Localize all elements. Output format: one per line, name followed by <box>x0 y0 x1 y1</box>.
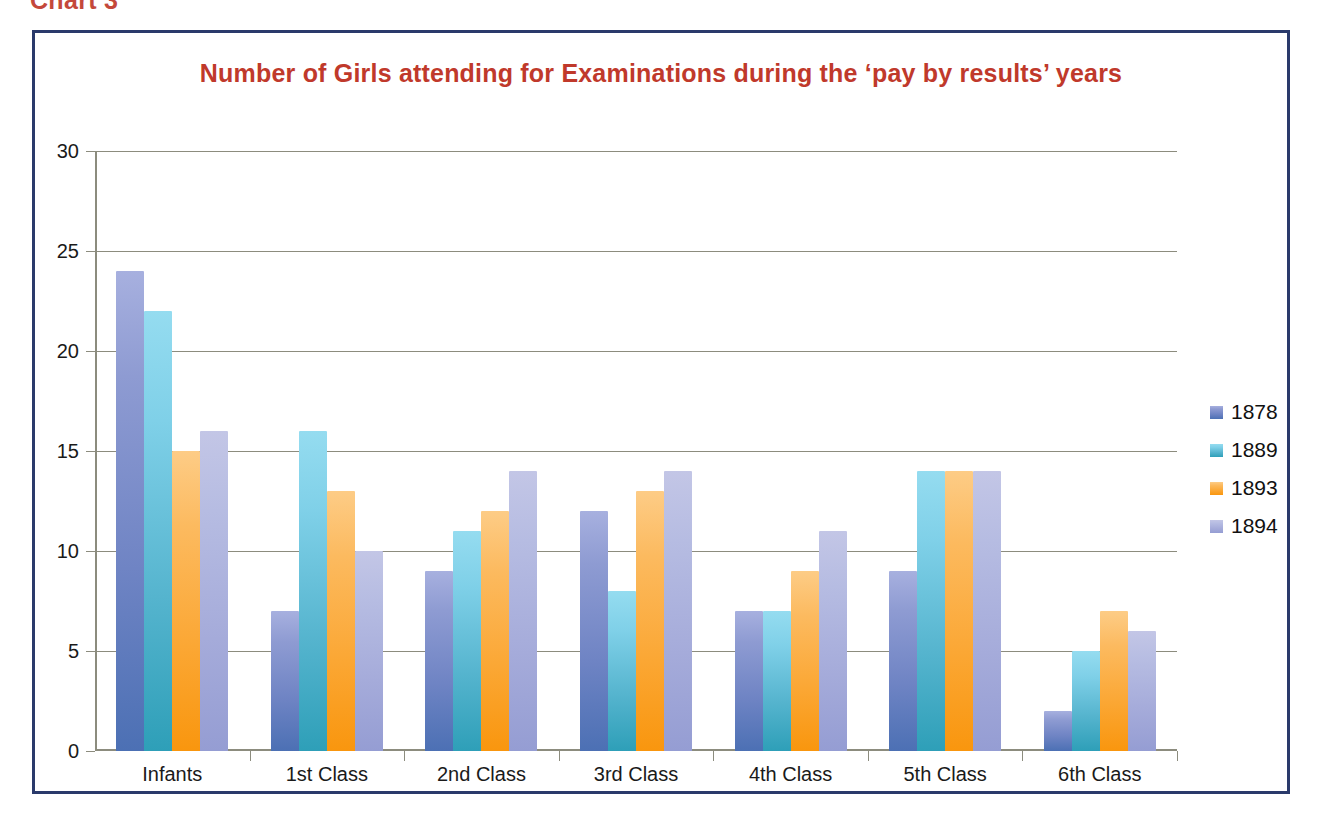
bar-1894-3rd-class[interactable] <box>664 471 692 751</box>
chart-figure-frame: Number of Girls attending for Examinatio… <box>32 30 1290 794</box>
legend-swatch-icon <box>1210 444 1223 457</box>
chart-caption: Chart 3 <box>30 0 118 15</box>
bar-1878-4th-class[interactable] <box>735 611 763 751</box>
x-axis-category-label: 5th Class <box>903 763 986 786</box>
bar-1878-6th-class[interactable] <box>1044 711 1072 751</box>
bar-1894-2nd-class[interactable] <box>509 471 537 751</box>
x-axis-tick <box>559 751 560 761</box>
bar-1894-5th-class[interactable] <box>973 471 1001 751</box>
bar-1878-5th-class[interactable] <box>889 571 917 751</box>
bar-1889-3rd-class[interactable] <box>608 591 636 751</box>
bar-1889-6th-class[interactable] <box>1072 651 1100 751</box>
y-axis-tick-label: 15 <box>57 440 79 463</box>
bar-1894-4th-class[interactable] <box>819 531 847 751</box>
bar-1893-2nd-class[interactable] <box>481 511 509 751</box>
bar-group <box>713 151 868 751</box>
bar-1889-1st-class[interactable] <box>299 431 327 751</box>
y-axis-tick <box>86 351 95 352</box>
legend-item-1889[interactable]: 1889 <box>1210 431 1300 469</box>
legend-label: 1893 <box>1231 476 1278 500</box>
bar-1893-6th-class[interactable] <box>1100 611 1128 751</box>
y-axis-tick <box>86 551 95 552</box>
bar-1889-2nd-class[interactable] <box>453 531 481 751</box>
y-axis-tick-label: 30 <box>57 140 79 163</box>
y-axis-tick-label: 5 <box>68 640 79 663</box>
bar-1893-5th-class[interactable] <box>945 471 973 751</box>
x-axis-category-label: 1st Class <box>286 763 368 786</box>
bar-1893-1st-class[interactable] <box>327 491 355 751</box>
legend-swatch-icon <box>1210 520 1223 533</box>
bar-1878-3rd-class[interactable] <box>580 511 608 751</box>
legend-label: 1878 <box>1231 400 1278 424</box>
bar-group <box>1022 151 1177 751</box>
bars-layer <box>95 151 1177 751</box>
bar-group <box>95 151 250 751</box>
bar-1894-infants[interactable] <box>200 431 228 751</box>
bar-1893-infants[interactable] <box>172 451 200 751</box>
bar-1893-4th-class[interactable] <box>791 571 819 751</box>
bar-1878-1st-class[interactable] <box>271 611 299 751</box>
bar-group <box>404 151 559 751</box>
x-axis-tick <box>713 751 714 761</box>
legend-item-1894[interactable]: 1894 <box>1210 507 1300 545</box>
chart-legend: 1878188918931894 <box>1210 393 1300 545</box>
x-axis-tick <box>868 751 869 761</box>
x-axis-tick <box>250 751 251 761</box>
bar-group <box>559 151 714 751</box>
legend-item-1878[interactable]: 1878 <box>1210 393 1300 431</box>
y-axis-tick <box>86 751 95 752</box>
legend-label: 1889 <box>1231 438 1278 462</box>
y-axis-tick <box>86 251 95 252</box>
x-axis-tick <box>1177 751 1178 761</box>
legend-label: 1894 <box>1231 514 1278 538</box>
bar-group <box>250 151 405 751</box>
y-axis-tick <box>86 651 95 652</box>
x-axis-category-label: 2nd Class <box>437 763 526 786</box>
y-axis-tick-label: 10 <box>57 540 79 563</box>
x-axis-tick <box>404 751 405 761</box>
bar-group <box>868 151 1023 751</box>
legend-swatch-icon <box>1210 406 1223 419</box>
x-axis-category-label: 3rd Class <box>594 763 678 786</box>
y-axis-tick-label: 0 <box>68 740 79 763</box>
chart-title: Number of Girls attending for Examinatio… <box>35 59 1287 88</box>
bar-1894-6th-class[interactable] <box>1128 631 1156 751</box>
x-axis-tick <box>1022 751 1023 761</box>
x-axis-category-label: 4th Class <box>749 763 832 786</box>
bar-1878-2nd-class[interactable] <box>425 571 453 751</box>
y-axis-tick-label: 25 <box>57 240 79 263</box>
legend-swatch-icon <box>1210 482 1223 495</box>
y-axis-tick <box>86 451 95 452</box>
bar-1889-5th-class[interactable] <box>917 471 945 751</box>
bar-1878-infants[interactable] <box>116 271 144 751</box>
bar-1893-3rd-class[interactable] <box>636 491 664 751</box>
bar-1894-1st-class[interactable] <box>355 551 383 751</box>
bar-1889-4th-class[interactable] <box>763 611 791 751</box>
bar-1889-infants[interactable] <box>144 311 172 751</box>
y-axis-tick-label: 20 <box>57 340 79 363</box>
x-axis-category-label: Infants <box>142 763 202 786</box>
plot-region: 051015202530 Infants1st Class2nd Class3r… <box>95 151 1177 751</box>
legend-item-1893[interactable]: 1893 <box>1210 469 1300 507</box>
x-axis-category-label: 6th Class <box>1058 763 1141 786</box>
y-axis-tick <box>86 151 95 152</box>
